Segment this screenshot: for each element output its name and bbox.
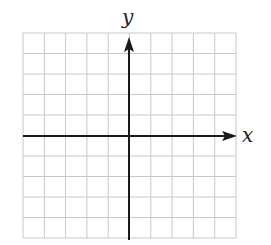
coordinate-plane: x y xyxy=(0,0,271,245)
y-axis-label: y xyxy=(121,5,134,29)
x-axis-label: x xyxy=(242,123,253,147)
